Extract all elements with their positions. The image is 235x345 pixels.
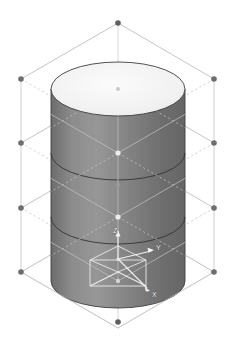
vertex-right-2[interactable]	[211, 140, 217, 146]
axis-origin-marker[interactable]	[116, 257, 119, 260]
vertex-center-6[interactable]	[116, 279, 120, 283]
vertex-left-2[interactable]	[18, 140, 24, 146]
vertex-right-4[interactable]	[211, 269, 217, 275]
axis-label-z: Z	[113, 227, 118, 234]
scene-canvas[interactable]: Z Y X	[0, 0, 235, 345]
vertex-apex-bottom[interactable]	[115, 319, 121, 325]
vertex-right-1[interactable]	[211, 76, 217, 82]
vertex-center-1[interactable]	[116, 87, 120, 91]
isometric-3d-viewport[interactable]: Z Y X	[0, 0, 235, 345]
vertex-center-3[interactable]	[116, 183, 120, 187]
vertex-left-4[interactable]	[18, 269, 24, 275]
axis-label-x: X	[152, 291, 157, 298]
vertex-left-3[interactable]	[18, 205, 24, 211]
vertex-center-4[interactable]	[115, 214, 120, 219]
vertex-right-3[interactable]	[211, 205, 217, 211]
vertex-center-2[interactable]	[115, 150, 120, 155]
vertex-apex-top[interactable]	[115, 20, 121, 26]
axis-label-y: Y	[156, 244, 161, 251]
vertex-left-1[interactable]	[18, 76, 24, 82]
